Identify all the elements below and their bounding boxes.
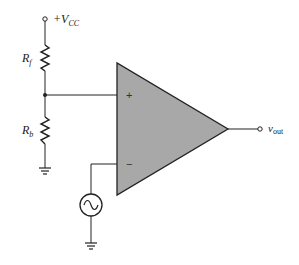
vout-terminal <box>258 127 262 131</box>
rf-label: Rf <box>21 51 33 67</box>
circuit-diagram: +VCC Rf Rb + − vout <box>0 0 299 265</box>
vout-label: vout <box>268 122 284 136</box>
rb-label: Rb <box>21 123 33 139</box>
opamp-triangle <box>117 63 228 195</box>
resistor-rf <box>41 45 49 71</box>
plus-sign: + <box>126 89 132 101</box>
vcc-terminal <box>43 17 47 21</box>
ground-icon <box>85 243 97 249</box>
ac-source-icon <box>80 194 102 216</box>
resistor-rb <box>41 117 49 144</box>
minus-sign: − <box>126 158 132 170</box>
vcc-label: +VCC <box>53 12 80 28</box>
wire-minus-input <box>91 164 117 194</box>
ground-icon <box>39 168 51 174</box>
